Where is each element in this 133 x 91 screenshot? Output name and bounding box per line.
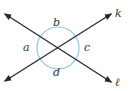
angle-a-label: a bbox=[23, 41, 30, 54]
intersecting-lines-diagram: k ℓ a b c d bbox=[0, 0, 133, 91]
angle-b-label: b bbox=[53, 16, 60, 29]
angle-d-label: d bbox=[53, 66, 60, 79]
angle-c-label: c bbox=[84, 41, 90, 54]
line-l-label: ℓ bbox=[115, 76, 120, 89]
line-k-label: k bbox=[115, 7, 122, 20]
